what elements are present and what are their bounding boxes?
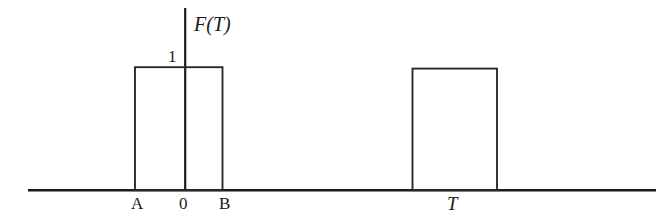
pulse-rectangle-1 (135, 67, 223, 190)
x-tick-label-origin: 0 (179, 195, 188, 212)
amplitude-label: 1 (168, 48, 177, 65)
x-tick-label-b: B (219, 195, 230, 212)
pulse-train-figure: F(T) 1 A 0 B T (0, 0, 672, 224)
x-tick-label-period: T (447, 194, 458, 213)
function-label: F(T) (194, 14, 231, 34)
pulse-rectangle-2 (413, 69, 498, 191)
figure-canvas (0, 0, 672, 224)
x-tick-label-a: A (131, 195, 143, 212)
